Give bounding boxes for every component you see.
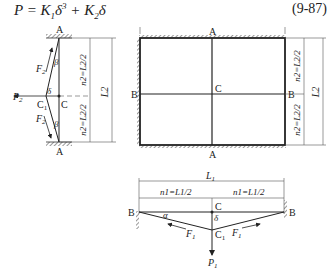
label-alpha: α: [163, 210, 168, 220]
label-f1-left: F1: [185, 228, 196, 241]
label-f2-lower: F2: [35, 113, 46, 126]
plate-label-b-right: B: [288, 89, 295, 100]
diagram-canvas: A A P2 C1 C δ F2 F2 β β n2=L2/2 n2=L2/2 …: [0, 0, 333, 273]
label-a-top: A: [56, 24, 64, 35]
plate-dim-upper-half: n2=L2/2: [292, 50, 302, 82]
label-c: C: [61, 99, 68, 110]
label-delta-bottom: δ: [214, 213, 219, 223]
plate-dim-lower-half: n2=L2/2: [292, 104, 302, 136]
label-a-bottom: A: [56, 146, 64, 157]
label-f2-upper: F2: [35, 63, 46, 76]
label-beta-upper: β: [53, 57, 59, 67]
dim-lower-half: n2=L2/2: [78, 104, 88, 136]
label-c1: C1: [37, 99, 48, 112]
dim-left-half: n1=L1/2: [160, 187, 192, 197]
plate-diagram: A A B B C n2=L2/2 n2=L2/2 L2: [131, 26, 326, 160]
label-beta-lower: β: [53, 119, 59, 129]
plate-label-a-top: A: [209, 26, 217, 37]
dim-upper-half: n2=L2/2: [78, 54, 88, 86]
plate-label-a-bottom: A: [209, 149, 217, 160]
dim-right-half: n1=L1/2: [233, 187, 265, 197]
force-arrow-f1-right: [242, 224, 260, 228]
label-b-left: B: [128, 207, 135, 218]
force-arrow-f1-left: [168, 224, 186, 229]
force-arrow-f2-upper: [46, 48, 52, 72]
label-p2: P2: [12, 91, 23, 104]
label-delta: δ: [47, 86, 52, 96]
label-c1-bottom: C1: [215, 229, 226, 242]
bottom-diagram: L1 n1=L1/2 n1=L1/2 B B C δ C1 α F1 F1 P1: [128, 170, 296, 270]
plate-label-b-left: B: [131, 89, 138, 100]
left-diagram: A A P2 C1 C δ F2 F2 β β n2=L2/2 n2=L2/2 …: [12, 24, 116, 157]
label-f1-right: F1: [231, 227, 242, 240]
plate-dim-total: L2: [310, 87, 321, 99]
label-b-right: B: [289, 207, 296, 218]
label-c-bottom: C: [215, 201, 222, 212]
label-p1: P1: [207, 257, 218, 270]
plate-label-c: C: [215, 83, 222, 94]
dim-total: L2: [99, 87, 110, 99]
